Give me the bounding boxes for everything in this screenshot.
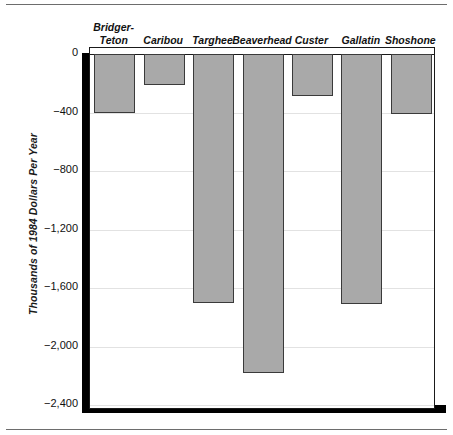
y-tick-label: −1,600 xyxy=(16,281,78,292)
y-tick-label: −2,400 xyxy=(16,398,78,409)
category-labels: Bridger- TetonCaribouTargheeBeaverheadCu… xyxy=(89,8,435,46)
bar xyxy=(243,54,284,373)
bar xyxy=(144,54,185,85)
y-tick-label: −400 xyxy=(16,106,78,117)
plot-area xyxy=(89,47,435,409)
bar xyxy=(94,54,135,113)
y-tick-label: 0 xyxy=(16,47,78,58)
bar xyxy=(341,54,382,304)
bar xyxy=(193,54,234,303)
category-label: Shoshone xyxy=(380,34,441,47)
y-axis-tick-labels: 0−400−800−1,200−1,600−2,000−2,400 xyxy=(14,0,78,435)
bar-series xyxy=(90,48,434,408)
bar xyxy=(292,54,333,96)
y-tick-label: −1,200 xyxy=(16,223,78,234)
y-tick-label: −2,000 xyxy=(16,340,78,351)
bar xyxy=(391,54,432,114)
y-tick-label: −800 xyxy=(16,164,78,175)
chart-figure: Thousands of 1984 Dollars Per Year 0−400… xyxy=(0,0,453,435)
